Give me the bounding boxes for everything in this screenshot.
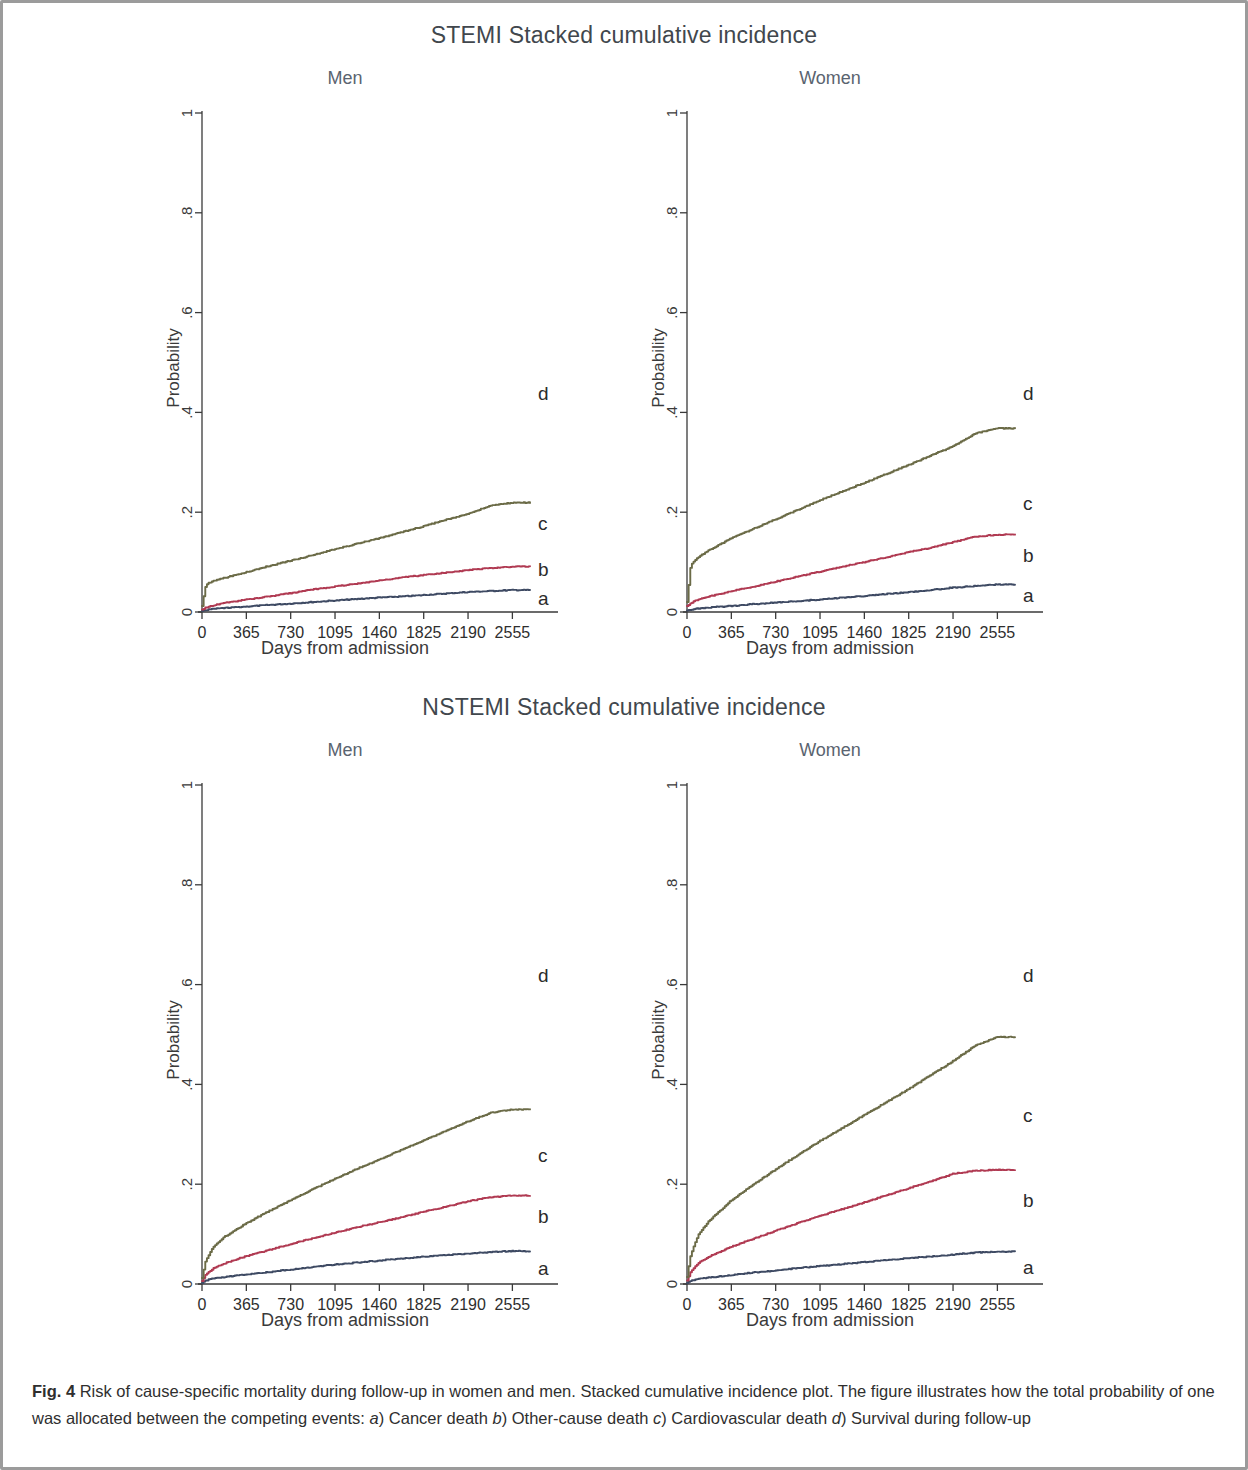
svg-text:1: 1 [663,781,680,789]
svg-text:.8: .8 [178,879,195,892]
svg-text:365: 365 [233,624,260,641]
x-axis-label-nstemi-women: Days from admission [595,1310,1065,1331]
svg-text:1095: 1095 [317,624,353,641]
figure-caption: Fig. 4 Risk of cause-specific mortality … [32,1378,1218,1431]
caption-text-c: ) Cardiovascular death [661,1409,832,1427]
caption-text-d: ) Survival during follow-up [841,1409,1031,1427]
svg-text:.4: .4 [178,1078,195,1091]
svg-text:.6: .6 [663,978,680,991]
plot-stemi-men: 0.2.4.6.81036573010951460182521902555dcb… [110,68,580,628]
svg-text:.8: .8 [178,207,195,220]
svg-text:1825: 1825 [891,624,927,641]
svg-text:1825: 1825 [406,1296,442,1313]
caption-mark-b: b [492,1409,501,1427]
svg-text:1: 1 [178,781,195,789]
svg-text:365: 365 [233,1296,260,1313]
svg-text:1095: 1095 [802,624,838,641]
svg-text:1825: 1825 [406,624,442,641]
svg-text:0: 0 [683,1296,692,1313]
svg-text:2555: 2555 [980,624,1016,641]
svg-text:0: 0 [683,624,692,641]
curve-label-c: c [538,1145,548,1166]
panel-nstemi-men: Men Probability Days from admission 0.2.… [110,740,580,1350]
svg-text:2190: 2190 [935,624,971,641]
svg-text:2555: 2555 [495,624,531,641]
section-title-stemi: STEMI Stacked cumulative incidence [0,22,1248,49]
curve-label-b: b [1023,1190,1034,1211]
curve-label-d: d [1023,383,1034,404]
svg-text:.2: .2 [178,506,195,519]
plot-nstemi-men: 0.2.4.6.81036573010951460182521902555dcb… [110,740,580,1300]
svg-text:365: 365 [718,624,745,641]
svg-text:1460: 1460 [362,624,398,641]
svg-text:0: 0 [663,1280,680,1288]
svg-text:.8: .8 [663,207,680,220]
curve-label-a: a [1023,1257,1034,1278]
section-nstemi: NSTEMI Stacked cumulative incidence Men … [0,672,1248,1372]
curve-label-c: c [1023,493,1033,514]
svg-text:.4: .4 [663,406,680,419]
caption-mark-c: c [653,1409,661,1427]
svg-text:2555: 2555 [495,1296,531,1313]
svg-text:730: 730 [762,624,789,641]
svg-text:1460: 1460 [362,1296,398,1313]
caption-body: Risk of cause-specific mortality during … [32,1382,1215,1427]
curve-label-a: a [1023,585,1034,606]
svg-text:.6: .6 [178,978,195,991]
panel-nstemi-women: Women Probability Days from admission 0.… [595,740,1065,1350]
curve-label-a: a [538,1258,549,1279]
svg-text:.4: .4 [663,1078,680,1091]
svg-text:1460: 1460 [847,624,883,641]
svg-text:.8: .8 [663,879,680,892]
caption-label: Fig. 4 [32,1382,75,1400]
svg-text:2190: 2190 [450,624,486,641]
svg-text:0: 0 [198,624,207,641]
svg-text:.6: .6 [663,306,680,319]
svg-text:1825: 1825 [891,1296,927,1313]
caption-text-b: ) Other-cause death [502,1409,653,1427]
section-stemi: STEMI Stacked cumulative incidence Men P… [0,0,1248,700]
plot-nstemi-women: 0.2.4.6.81036573010951460182521902555dcb… [595,740,1065,1300]
plot-stemi-women: 0.2.4.6.81036573010951460182521902555dcb… [595,68,1065,628]
svg-text:.2: .2 [663,1178,680,1191]
curve-label-a: a [538,588,549,609]
curve-label-b: b [538,1206,549,1227]
curve-label-d: d [1023,965,1034,986]
svg-text:1095: 1095 [317,1296,353,1313]
section-title-nstemi: NSTEMI Stacked cumulative incidence [0,694,1248,721]
x-axis-label-stemi-men: Days from admission [110,638,580,659]
svg-text:0: 0 [178,608,195,616]
caption-mark-a: a [370,1409,379,1427]
curve-label-b: b [538,559,549,580]
svg-text:0: 0 [663,608,680,616]
curve-label-c: c [538,513,548,534]
svg-text:730: 730 [277,624,304,641]
svg-text:.6: .6 [178,306,195,319]
svg-text:2190: 2190 [450,1296,486,1313]
x-axis-label-stemi-women: Days from admission [595,638,1065,659]
svg-text:.4: .4 [178,406,195,419]
x-axis-label-nstemi-men: Days from admission [110,1310,580,1331]
panel-stemi-women: Women Probability Days from admission 0.… [595,68,1065,678]
svg-text:0: 0 [198,1296,207,1313]
panel-stemi-men: Men Probability Days from admission 0.2.… [110,68,580,678]
svg-text:730: 730 [277,1296,304,1313]
svg-text:1095: 1095 [802,1296,838,1313]
curve-label-d: d [538,383,549,404]
curve-label-d: d [538,965,549,986]
curve-label-c: c [1023,1105,1033,1126]
svg-text:1: 1 [178,109,195,117]
svg-text:1460: 1460 [847,1296,883,1313]
curve-label-b: b [1023,545,1034,566]
caption-mark-d: d [832,1409,841,1427]
svg-text:.2: .2 [178,1178,195,1191]
svg-text:1: 1 [663,109,680,117]
caption-text-a: ) Cancer death [379,1409,493,1427]
svg-text:0: 0 [178,1280,195,1288]
svg-text:.2: .2 [663,506,680,519]
svg-text:365: 365 [718,1296,745,1313]
svg-text:2555: 2555 [980,1296,1016,1313]
svg-text:730: 730 [762,1296,789,1313]
svg-text:2190: 2190 [935,1296,971,1313]
